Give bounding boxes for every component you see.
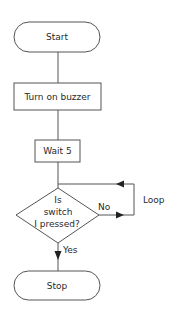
flowchart: Start Turn on buzzer Wait 5 Is switch I … — [0, 0, 174, 316]
decision-line2: switch — [44, 207, 73, 217]
no-label: No — [98, 202, 111, 212]
yes-arrow-down-icon — [55, 251, 62, 260]
wait-label: Wait 5 — [43, 146, 71, 156]
buzzer-label: Turn on buzzer — [23, 92, 90, 102]
stop-label: Stop — [47, 281, 68, 291]
loop-arrow-left-icon — [116, 181, 124, 188]
yes-label: Yes — [62, 245, 78, 255]
no-arrow-right-icon — [116, 212, 124, 219]
start-label: Start — [46, 32, 68, 42]
loop-label: Loop — [143, 195, 165, 205]
decision-line1: Is — [54, 195, 62, 205]
decision-line3: I pressed? — [34, 219, 80, 229]
